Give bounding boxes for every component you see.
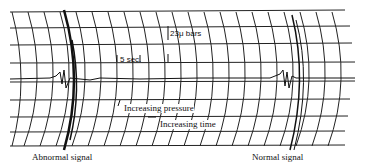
increasing-time-label: Increasing time (160, 120, 216, 129)
bar-scale-label: 23μ bars (170, 30, 201, 38)
increasing-pressure-label: Increasing pressure (124, 104, 194, 113)
abnormal-signal-caption: Abnormal signal (32, 153, 92, 162)
normal-signal-caption: Normal signal (252, 153, 303, 162)
time-scale-label: 5 sec. (120, 56, 141, 64)
chart-recording (0, 0, 376, 168)
abnormal-signal-trace (64, 10, 77, 150)
